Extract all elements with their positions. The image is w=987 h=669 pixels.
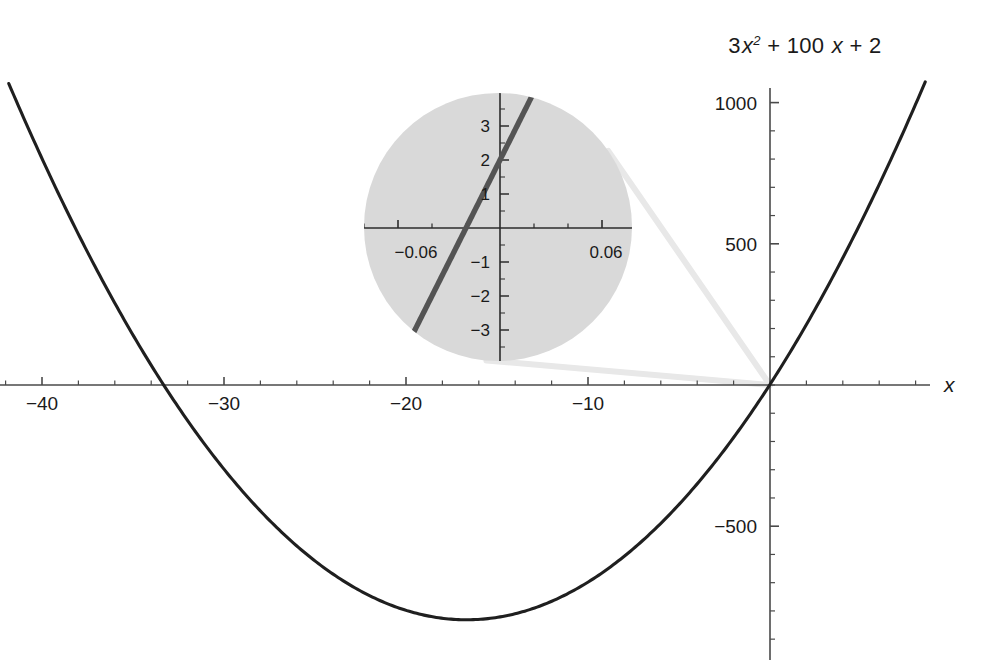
inset-y-tick-label: −3 bbox=[471, 321, 490, 340]
x-axis-tick-label: −40 bbox=[26, 393, 58, 414]
inset-background-disc bbox=[364, 93, 632, 361]
inset-x-tick-label: −0.06 bbox=[394, 243, 437, 262]
inset-y-tick-label: 2 bbox=[481, 151, 490, 170]
inset-x-tick-label: 0.06 bbox=[589, 243, 622, 262]
x-axis-tick-label: −30 bbox=[208, 393, 240, 414]
y-axis-tick-label: −500 bbox=[714, 516, 757, 537]
inset-y-tick-label: −2 bbox=[471, 287, 490, 306]
x-axis-tick-labels: −40−30−20−10 bbox=[26, 393, 604, 414]
plot-canvas: −40−30−20−10 −5005001000 x −0.060.06 −3−… bbox=[0, 0, 987, 669]
inset-connector-lower bbox=[608, 151, 770, 385]
y-axis-tick-label: 500 bbox=[725, 234, 757, 255]
x-axis-label: x bbox=[943, 373, 956, 396]
x-axis-tick-label: −10 bbox=[572, 393, 604, 414]
inset-connector-upper bbox=[486, 361, 770, 386]
inset-y-tick-label: 3 bbox=[481, 117, 490, 136]
inset-y-tick-label: −1 bbox=[471, 253, 490, 272]
x-axis-ticks bbox=[6, 377, 916, 385]
x-axis-tick-label: −20 bbox=[390, 393, 422, 414]
inset-y-tick-label: 1 bbox=[481, 185, 490, 204]
y-axis-tick-label: 1000 bbox=[715, 93, 757, 114]
plot-figure: 3x2 + 100 x + 2 −40−30−20−10 −5005001000… bbox=[0, 0, 987, 669]
